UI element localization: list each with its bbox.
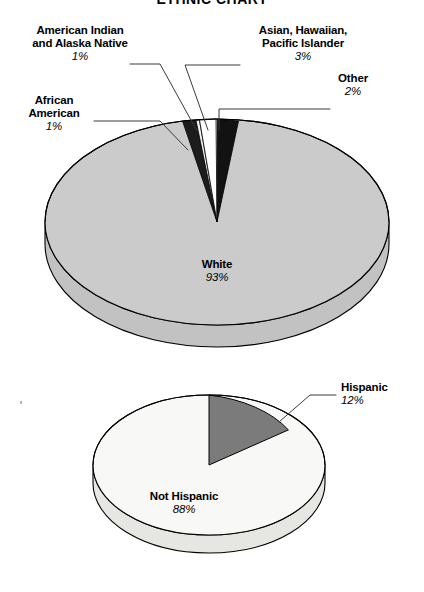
label-american-indian-line1: American Indian [14, 24, 146, 37]
ethnicity-pie-3d [93, 395, 325, 553]
ethnic-chart-figure: ETHNIC CHART [0, 0, 424, 592]
label-not-hispanic: Not Hispanic 88% [129, 490, 239, 516]
label-asian-line2: Pacific Islander [233, 37, 373, 50]
race-pie-3d [45, 119, 389, 347]
label-american-indian: American Indian and Alaska Native 1% [14, 24, 146, 63]
label-american-indian-percent: 1% [14, 50, 146, 63]
label-african-american-line1: African [12, 94, 96, 107]
label-hispanic-percent: 12% [341, 394, 421, 407]
label-african-american: African American 1% [12, 94, 96, 133]
label-african-american-line2: American [12, 107, 96, 120]
label-not-hispanic-percent: 88% [129, 503, 239, 516]
label-asian-percent: 3% [233, 50, 373, 63]
label-other: Other 2% [324, 72, 382, 98]
label-asian: Asian, Hawaiian, Pacific Islander 3% [233, 24, 373, 63]
label-african-american-percent: 1% [12, 120, 96, 133]
label-other-name: Other [324, 72, 382, 85]
label-asian-line1: Asian, Hawaiian, [233, 24, 373, 37]
label-other-percent: 2% [324, 85, 382, 98]
label-hispanic-name: Hispanic [341, 381, 421, 394]
label-not-hispanic-name: Not Hispanic [129, 490, 239, 503]
label-american-indian-line2: and Alaska Native [14, 37, 146, 50]
label-hispanic: Hispanic 12% [341, 381, 421, 407]
label-white-percent: 93% [182, 271, 252, 284]
label-white-name: White [182, 258, 252, 271]
label-white: White 93% [182, 258, 252, 284]
